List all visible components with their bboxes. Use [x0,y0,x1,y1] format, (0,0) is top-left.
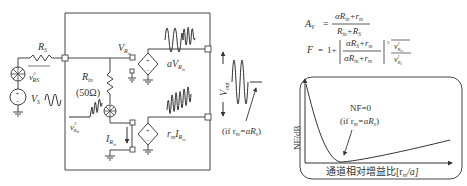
svg-text:+: + [146,58,150,64]
f-equation-lhs: F [306,44,314,55]
output-node-bottom [205,114,211,120]
svg-text:v2RS: v2RS [29,71,39,83]
ground-icon [13,112,23,116]
svg-text:1+: 1+ [327,45,337,55]
svg-text:(if rm=aRs): (if rm=aRs) [340,116,379,127]
svg-text:rmIRin: rmIRin [167,128,185,142]
svg-text:aVRin: aVRin [167,58,185,72]
rin-noise-icon [104,105,116,117]
ground-icon [143,145,153,154]
vout-wave-icon [232,60,248,104]
equations: AV = αRin+rm Rin+RS F = 1+ αRS+rm αRin+r… [304,11,411,66]
svg-text:VS: VS [31,93,40,105]
ground-icon [105,156,115,160]
svg-text:v2RS: v2RS [394,54,402,66]
dependent-transresistance-source: + – rmIRin [138,87,211,154]
svg-text:–: – [146,137,151,143]
svg-text:v2Rin: v2Rin [394,41,403,53]
minimum-arrow-icon [344,130,352,155]
svg-text:(if rm=aRs): (if rm=aRs) [222,126,261,137]
source-branch: + – RS v2RS VS [10,41,68,116]
rin-noise-wave-icon [69,99,102,117]
svg-text:v2Rin: v2Rin [70,121,80,134]
svg-text:通道相对增益比[rm/a]: 通道相对增益比[rm/a] [326,165,419,178]
svg-text:–: – [146,67,151,73]
svg-text:RS: RS [37,41,47,53]
svg-text:AV: AV [304,18,316,30]
y-axis-label: NF/dB [292,125,302,150]
source-noise-icon [11,67,25,81]
ground-icon [143,75,153,84]
svg-text:+: + [146,128,150,134]
vrin-terminal [130,55,135,60]
svg-text:αRin+rm: αRin+rm [344,53,372,64]
ground-icon [128,73,136,82]
svg-text:2: 2 [387,40,390,45]
output-section: Vout (if rm=aRs) [218,52,262,137]
x-axis-label: 通道相对增益比[r [326,165,403,177]
av-numerator: αR [335,11,346,21]
output-wave-bottom-icon [167,87,191,114]
svg-text:IRin: IRin [105,133,116,147]
input-network: VRin Rin (50Ω) v2Rin IRin [68,42,136,160]
svg-text:–: – [15,98,20,104]
output-wave-top-icon [165,27,195,52]
rs-label: R [37,41,44,52]
noise-cancelling-lna-diagram: + – RS v2RS VS [0,0,467,186]
f-numerator: αR [346,38,357,48]
rin-label: R [81,71,88,82]
irin-terminal-top [130,120,135,125]
rin-value: (50Ω) [76,87,100,99]
svg-text:αRS+rm: αRS+rm [346,38,373,49]
svg-text:Vout: Vout [218,82,230,96]
svg-text:Rin+RS: Rin+RS [336,26,361,37]
svg-text:αRin+rm: αRin+rm [335,11,363,22]
vs-sine-icon [45,94,61,106]
svg-text:Rin: Rin [81,71,93,83]
input-node [62,55,68,61]
svg-text:=: = [323,18,329,29]
nf-plot: NF/dB NF=0 (if rm=aRs) 通道相对增益比[rm/a] [292,77,462,179]
nf-min-condition: (if r [340,116,354,126]
vout-condition-label: (if r [222,126,236,136]
output-node-top [205,46,211,52]
vs-source-icon: + – [10,89,26,105]
svg-text:=: = [318,45,323,55]
irin-terminal-bottom [130,147,135,152]
svg-text:VRin: VRin [118,42,131,56]
svg-text:+: + [16,91,20,97]
nf-min-annotation: NF=0 [350,103,372,113]
dependent-voltage-source: + – aVRin [138,27,211,84]
plot-frame [300,77,462,179]
f-denominator: αR [344,53,355,63]
